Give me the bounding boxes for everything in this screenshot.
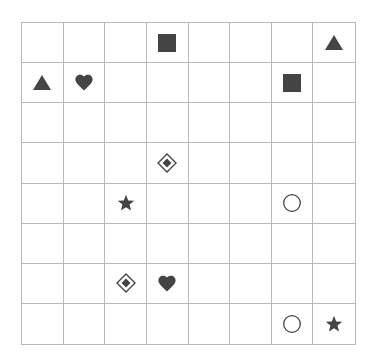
board-cell-r1-c5[interactable] (230, 63, 272, 103)
triangle-icon (325, 35, 343, 50)
board-cell-r7-c4[interactable] (189, 304, 231, 344)
board-cell-r0-c4[interactable] (189, 23, 231, 63)
circle-icon (282, 193, 302, 213)
board-cell-r2-c0[interactable] (22, 103, 64, 143)
board-cell-r4-c1[interactable] (64, 184, 106, 224)
board-cell-r0-c5[interactable] (230, 23, 272, 63)
board-cell-r7-c1[interactable] (64, 304, 106, 344)
board-cell-r0-c0[interactable] (22, 23, 64, 63)
board-cell-r3-c6[interactable] (272, 143, 314, 183)
board-cell-r7-c5[interactable] (230, 304, 272, 344)
diamond-icon (157, 153, 177, 173)
board-cell-r3-c3[interactable] (147, 143, 189, 183)
board-cell-r4-c2[interactable] (105, 184, 147, 224)
square-icon (158, 34, 176, 52)
board-cell-r1-c4[interactable] (189, 63, 231, 103)
board-cell-r2-c4[interactable] (189, 103, 231, 143)
board-cell-r1-c7[interactable] (313, 63, 355, 103)
board-cell-r7-c2[interactable] (105, 304, 147, 344)
board-cell-r2-c1[interactable] (64, 103, 106, 143)
triangle-icon (33, 75, 51, 90)
board-cell-r1-c0[interactable] (22, 63, 64, 103)
heart-icon (158, 275, 176, 292)
board-cell-r4-c0[interactable] (22, 184, 64, 224)
board-cell-r4-c4[interactable] (189, 184, 231, 224)
board-cell-r5-c1[interactable] (64, 224, 106, 264)
board-cell-r3-c0[interactable] (22, 143, 64, 183)
board-cell-r7-c0[interactable] (22, 304, 64, 344)
board-cell-r4-c5[interactable] (230, 184, 272, 224)
square-icon (283, 74, 301, 92)
board-cell-r5-c6[interactable] (272, 224, 314, 264)
circle-icon (282, 314, 302, 334)
board-cell-r0-c1[interactable] (64, 23, 106, 63)
board-cell-r5-c5[interactable] (230, 224, 272, 264)
board-cell-r4-c7[interactable] (313, 184, 355, 224)
board-cell-r2-c6[interactable] (272, 103, 314, 143)
star-icon (325, 315, 343, 333)
board-cell-r2-c7[interactable] (313, 103, 355, 143)
board-cell-r5-c4[interactable] (189, 224, 231, 264)
board-cell-r5-c2[interactable] (105, 224, 147, 264)
board-cell-r6-c2[interactable] (105, 264, 147, 304)
board-cell-r1-c2[interactable] (105, 63, 147, 103)
board-cell-r5-c0[interactable] (22, 224, 64, 264)
board-cell-r1-c3[interactable] (147, 63, 189, 103)
board-cell-r7-c7[interactable] (313, 304, 355, 344)
star-icon (117, 194, 135, 212)
board-cell-r7-c3[interactable] (147, 304, 189, 344)
board-cell-r6-c3[interactable] (147, 264, 189, 304)
board-cell-r0-c2[interactable] (105, 23, 147, 63)
game-board (21, 22, 356, 345)
board-cell-r6-c0[interactable] (22, 264, 64, 304)
board-cell-r6-c5[interactable] (230, 264, 272, 304)
board-cell-r3-c2[interactable] (105, 143, 147, 183)
board-cell-r5-c7[interactable] (313, 224, 355, 264)
heart-icon (75, 74, 93, 91)
board-cell-r6-c6[interactable] (272, 264, 314, 304)
board-cell-r3-c5[interactable] (230, 143, 272, 183)
board-cell-r3-c7[interactable] (313, 143, 355, 183)
board-cell-r0-c3[interactable] (147, 23, 189, 63)
board-cell-r0-c7[interactable] (313, 23, 355, 63)
board-cell-r1-c6[interactable] (272, 63, 314, 103)
board-cell-r5-c3[interactable] (147, 224, 189, 264)
board-cell-r2-c5[interactable] (230, 103, 272, 143)
board-cell-r1-c1[interactable] (64, 63, 106, 103)
board-cell-r2-c2[interactable] (105, 103, 147, 143)
board-cell-r4-c3[interactable] (147, 184, 189, 224)
board-cell-r4-c6[interactable] (272, 184, 314, 224)
board-cell-r6-c1[interactable] (64, 264, 106, 304)
board-cell-r6-c7[interactable] (313, 264, 355, 304)
board-cell-r6-c4[interactable] (189, 264, 231, 304)
diamond-icon (116, 273, 136, 293)
board-cell-r3-c4[interactable] (189, 143, 231, 183)
board-cell-r7-c6[interactable] (272, 304, 314, 344)
board-cell-r3-c1[interactable] (64, 143, 106, 183)
board-cell-r0-c6[interactable] (272, 23, 314, 63)
board-cell-r2-c3[interactable] (147, 103, 189, 143)
